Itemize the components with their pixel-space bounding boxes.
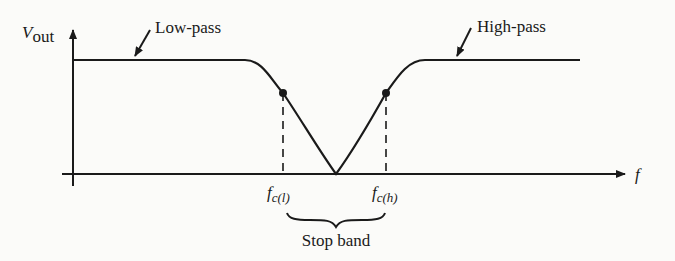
x-axis-label: f: [635, 165, 642, 184]
y-axis-label: Vout: [22, 23, 54, 46]
low-pass-arrow: [135, 30, 150, 56]
cutoff-high-point: [382, 89, 390, 97]
response-curve: [73, 60, 580, 174]
stop-band-brace: [287, 213, 385, 227]
cutoff-high-label: fc(h): [372, 183, 398, 205]
high-pass-label: High-pass: [477, 17, 546, 36]
cutoff-low-point: [279, 89, 287, 97]
low-pass-label: Low-pass: [155, 18, 221, 37]
stop-band-label: Stop band: [302, 231, 371, 250]
high-pass-arrow: [457, 28, 471, 56]
cutoff-low-label: fc(l): [267, 183, 290, 205]
band-stop-diagram: Vout f Low-pass High-pass fc(l) fc(h) St…: [0, 0, 675, 261]
